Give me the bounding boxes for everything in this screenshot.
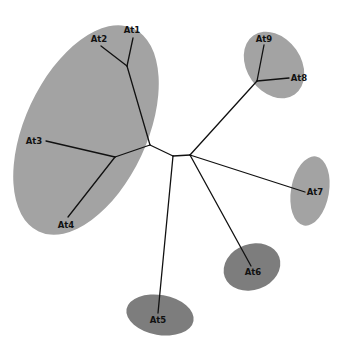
clade-ellipses <box>0 3 335 341</box>
taxon-label-at4: At4 <box>58 220 75 230</box>
taxon-label-at8: At8 <box>291 73 308 83</box>
branch-line <box>173 155 190 156</box>
branch-line <box>150 145 173 156</box>
taxon-label-at9: At9 <box>256 34 273 44</box>
branch-line <box>158 156 173 313</box>
taxon-label-at6: At6 <box>245 267 262 277</box>
clade-at8-at9-ellipse <box>231 20 317 110</box>
phylogenetic-tree: At1 At2 At3 At4 At5 At6 At7 At8 At9 <box>0 0 348 348</box>
branch-line <box>190 81 257 155</box>
taxon-label-at5: At5 <box>150 315 167 325</box>
taxon-label-at3: At3 <box>26 136 43 146</box>
taxon-label-at7: At7 <box>307 187 324 197</box>
taxon-label-at1: At1 <box>124 25 141 35</box>
taxon-label-at2: At2 <box>91 34 108 44</box>
